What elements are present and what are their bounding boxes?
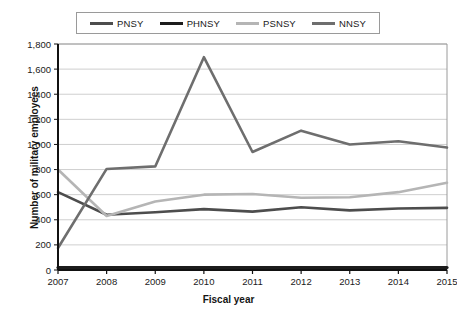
svg-text:2012: 2012 — [291, 276, 312, 287]
svg-text:1,400: 1,400 — [27, 89, 51, 100]
svg-text:1,800: 1,800 — [27, 39, 51, 50]
svg-text:2014: 2014 — [388, 276, 409, 287]
svg-text:1,600: 1,600 — [27, 64, 51, 75]
x-tick-labels: 200720082009201020112012201320142015 — [47, 276, 457, 287]
plot-frame — [58, 44, 447, 270]
series-lines — [58, 57, 447, 267]
svg-text:200: 200 — [35, 239, 51, 250]
svg-text:800: 800 — [35, 164, 51, 175]
svg-text:2008: 2008 — [96, 276, 117, 287]
svg-text:600: 600 — [35, 189, 51, 200]
x-axis-title: Fiscal year — [0, 294, 457, 305]
svg-text:2010: 2010 — [193, 276, 214, 287]
svg-text:0: 0 — [46, 265, 51, 276]
y-tick-labels: 02004006008001,0001,2001,4001,6001,800 — [27, 39, 51, 276]
svg-text:2007: 2007 — [47, 276, 68, 287]
svg-text:2009: 2009 — [145, 276, 166, 287]
axis-lines — [58, 44, 447, 270]
svg-text:400: 400 — [35, 214, 51, 225]
svg-text:2013: 2013 — [339, 276, 360, 287]
svg-text:2015: 2015 — [436, 276, 457, 287]
plot-area: 02004006008001,0001,2001,4001,6001,800 2… — [0, 0, 457, 323]
series-line-pnsy — [58, 192, 447, 215]
svg-text:2011: 2011 — [242, 276, 262, 287]
line-chart: PNSY PHNSY PSNSY NNSY Number of military… — [0, 0, 457, 323]
svg-text:1,200: 1,200 — [27, 114, 51, 125]
svg-text:1,000: 1,000 — [27, 139, 51, 150]
